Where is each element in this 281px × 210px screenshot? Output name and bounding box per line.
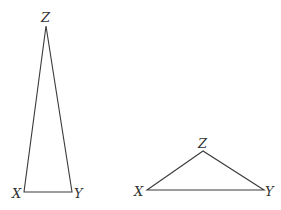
vertex-label-y-right: Y [265,184,275,199]
vertex-label-y-left: Y [74,186,84,201]
triangle-right-outline [147,151,264,190]
triangle-right: Z X Y [133,136,275,199]
diagram-canvas: Z X Y Z X Y [0,0,281,210]
triangle-left: Z X Y [11,10,84,201]
vertex-label-x-left: X [11,186,22,201]
vertex-label-z-left: Z [40,10,51,25]
triangle-left-outline [24,26,72,192]
triangles-figure: Z X Y Z X Y [0,0,281,210]
vertex-label-x-right: X [133,184,144,199]
vertex-label-z-right: Z [197,136,208,151]
